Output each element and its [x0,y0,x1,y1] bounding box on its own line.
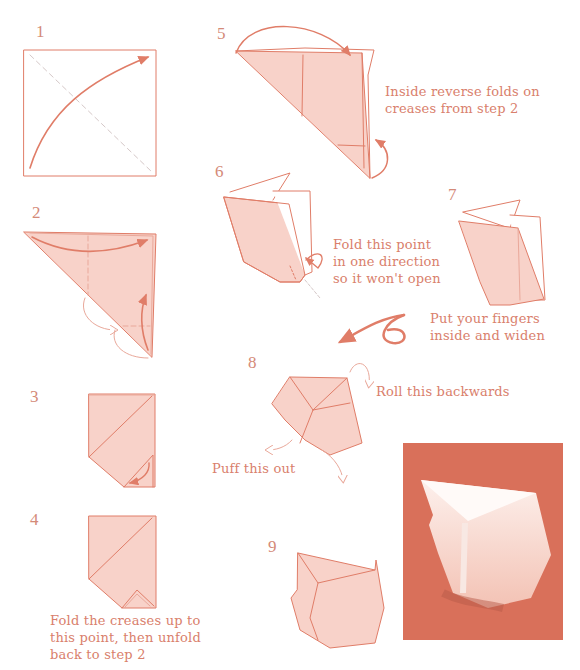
swirl-arrow [340,315,404,343]
step-5-fold [236,27,388,178]
finished-model-photo [403,443,563,640]
step-7-fold [459,200,545,305]
step-8-model [268,363,369,480]
photo-model-shape [403,443,563,640]
step-6-fold [224,173,322,298]
step-2-triangle [24,232,156,358]
step-9-model [291,553,384,648]
step-4-fold [89,516,156,608]
step-1-square [24,50,156,176]
step-3-fold [89,394,155,487]
